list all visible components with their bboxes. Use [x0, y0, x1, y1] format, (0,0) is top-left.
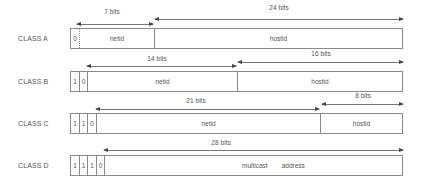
class-b-label: CLASS B: [18, 78, 48, 85]
class-b-hostid-bits: 16bits: [311, 50, 330, 57]
class-a-netid-bits: 7bits: [104, 8, 120, 15]
class-b-netid-bits: 14bits: [147, 55, 166, 62]
class-a-hostid-bits: 24bits: [269, 4, 288, 11]
class-c-bit-2: 0: [88, 114, 97, 133]
class-c-netid-field: netid: [97, 114, 321, 133]
class-b-netid-field: netid: [88, 72, 238, 91]
class-c-bit-0: 1: [71, 114, 80, 133]
class-c-address-box: 1 1 0 netid hostid: [70, 113, 403, 134]
class-d-bit-1: 1: [80, 156, 88, 175]
class-d-address-box: 1 1 1 0 multicast address: [70, 155, 403, 176]
class-d-address-text: address: [282, 162, 305, 169]
class-b-bit-1: 0: [80, 72, 88, 91]
class-c-netid-arrow: [96, 109, 319, 110]
class-d-multicast-arrow: [104, 150, 403, 151]
class-c-hostid-field: hostid: [321, 114, 402, 133]
class-c-netid-bits: 21bits: [186, 97, 205, 104]
class-a-label: CLASS A: [18, 35, 48, 42]
class-a-hostid-field: hostid: [155, 29, 402, 48]
class-b-netid-arrow: [87, 66, 236, 67]
class-a-netid-arrow: [77, 24, 153, 25]
class-d-bit-2: 1: [88, 156, 97, 175]
class-d-bit-0: 1: [71, 156, 80, 175]
class-c-hostid-arrow: [322, 104, 403, 105]
class-a-hostid-arrow: [155, 19, 403, 20]
class-d-bits: 28bits: [211, 139, 230, 146]
class-d-multicast-field: multicast address: [105, 156, 402, 175]
class-a-bit-0: 0: [71, 29, 80, 48]
class-b-bit-0: 1: [71, 72, 80, 91]
class-a-netid-field: netid: [80, 29, 155, 48]
class-b-hostid-field: hostid: [238, 72, 402, 91]
class-b-hostid-arrow: [238, 62, 403, 63]
class-c-hostid-bits: 8bits: [355, 92, 371, 99]
class-d-label: CLASS D: [18, 162, 49, 169]
class-b-address-box: 1 0 netid hostid: [70, 71, 403, 92]
class-c-bit-1: 1: [80, 114, 88, 133]
class-d-multicast-text: multicast: [242, 162, 268, 169]
class-d-bit-3: 0: [97, 156, 105, 175]
class-c-label: CLASS C: [18, 120, 49, 127]
class-a-address-box: 0 netid hostid: [70, 28, 403, 49]
